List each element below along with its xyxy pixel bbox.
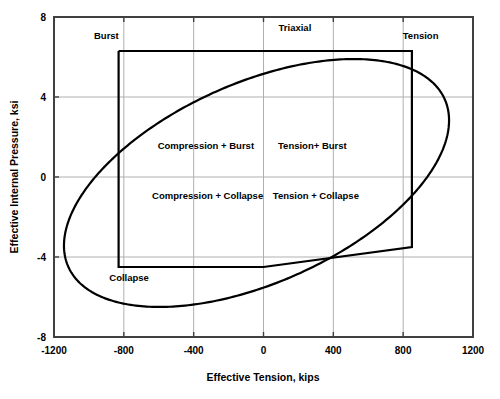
x-tick-label: 1200	[462, 345, 485, 356]
x-tick-label: -1200	[41, 345, 67, 356]
x-tick-label: -400	[184, 345, 204, 356]
y-tick-label: 4	[40, 92, 46, 103]
x-tick-label: -800	[114, 345, 134, 356]
y-tick-label: 0	[40, 172, 46, 183]
x-tick-label: 400	[325, 345, 342, 356]
y-axis-title: Effective Internal Pressure, ksi	[8, 100, 20, 253]
tension-label: Tension	[403, 30, 439, 41]
x-axis-title: Effective Tension, kips	[206, 371, 319, 383]
x-tick-label: 0	[261, 345, 267, 356]
collapse-label: Collapse	[109, 272, 149, 283]
x-tick-label: 800	[395, 345, 412, 356]
y-tick-label: 8	[40, 12, 46, 23]
y-tick-label: -8	[37, 332, 46, 343]
burst-label: Burst	[94, 30, 120, 41]
triaxial-label: Triaxial	[279, 22, 312, 33]
tension-pressure-plot: -1200-800-40004008001200 -8-4048 Triaxia…	[0, 0, 500, 399]
y-tick-label: -4	[37, 252, 46, 263]
tension-burst-label: Tension+ Burst	[278, 140, 348, 151]
compression-burst-label: Compression + Burst	[158, 140, 255, 151]
tension-collapse-label: Tension + Collapse	[273, 190, 359, 201]
chart-figure: -1200-800-40004008001200 -8-4048 Triaxia…	[0, 0, 500, 399]
compression-collapse-label: Compression + Collapse	[152, 190, 263, 201]
